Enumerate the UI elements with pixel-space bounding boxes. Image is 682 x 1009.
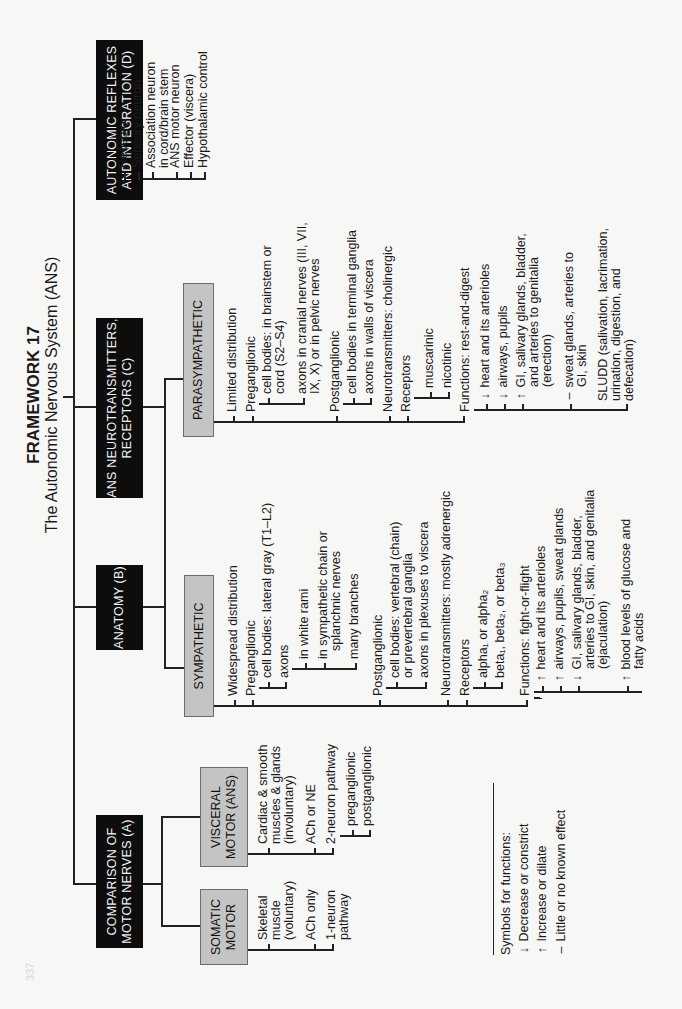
page-number: 337 [24, 963, 36, 981]
reflex-tick [124, 172, 126, 180]
para-post-tick [353, 398, 355, 405]
increase-arrow-icon: ↑ [536, 945, 549, 955]
decrease-arrow-icon: ↓ [571, 673, 584, 683]
para-tick [407, 416, 409, 423]
trunk-drop-c [73, 407, 96, 409]
symp-receptor-alpha: alpha₁ or alpha₂ [477, 590, 490, 678]
symp-tick [379, 700, 381, 707]
symp-drop [164, 668, 184, 670]
symp-spine [214, 706, 527, 708]
para-tick [463, 416, 465, 423]
page-title: FRAMEWORK 17 [24, 295, 44, 495]
legend-no-effect-label: Little or no known effect [554, 810, 568, 942]
para-function-item: ↓ airways, pupils [497, 306, 510, 401]
symp-pre-cell-bodies: cell bodies: lateral gray (T1–L2) [261, 503, 274, 678]
visceral-item: postganglionic [361, 746, 374, 826]
symp-pre-axons: axons [278, 645, 291, 678]
symp-post-spine [386, 688, 426, 690]
symp-receptors: Receptors [459, 639, 472, 696]
para-pre-spine [259, 404, 304, 406]
symp-func-bar [540, 698, 542, 699]
para-func-tick [486, 404, 488, 411]
symp-pre-tick [268, 682, 270, 689]
reflex-tick [152, 172, 154, 180]
para-rec-tick [430, 392, 432, 399]
visceral-tick [314, 848, 316, 855]
symp-function-item: ↑ heart and its arterioles [535, 546, 548, 683]
symp-tick [526, 700, 528, 707]
trunk-drop-a [73, 884, 96, 886]
bc-branch [164, 379, 166, 669]
symp-post-tick [396, 682, 398, 689]
para-pre-tick [268, 398, 270, 405]
symp-func-sub-spine [534, 692, 642, 694]
no-effect-dash-icon: – [563, 391, 576, 401]
para-func-tick [626, 404, 628, 411]
para-post-tick [370, 398, 372, 405]
para-distribution: Limited distribution [226, 308, 239, 412]
somatic-item: (voluntary) [283, 881, 296, 940]
para-func-tick [504, 404, 506, 411]
reflex-tick [190, 172, 192, 180]
visceral-spine [248, 854, 332, 856]
sympathetic-label: SYMPATHETIC [192, 602, 207, 689]
visceral-item: ACh or NE [305, 784, 318, 844]
section-b-box: ANATOMY (B) [96, 565, 143, 650]
symp-preganglionic: Preganglionic [245, 620, 258, 696]
increase-arrow-icon: ↑ [535, 673, 548, 683]
symp-post-tick [425, 682, 427, 689]
para-function-item: GI, skin [576, 345, 589, 387]
para-pre-tick [303, 398, 305, 405]
para-rec-tick [448, 392, 450, 399]
increase-arrow-icon: ↑ [515, 391, 528, 401]
increase-arrow-icon: ↑ [620, 673, 633, 683]
para-tick [389, 416, 391, 423]
para-neurotransmitters: Neurotransmitters: cholinergic [382, 246, 395, 412]
para-function-item: defecation) [623, 339, 636, 401]
reflex-tick [138, 172, 140, 180]
para-rec-spine [414, 398, 449, 400]
legend-item: ↑ Increase or dilate [536, 846, 549, 955]
trunk-drop-d [73, 119, 96, 121]
para-function-item: ↓ heart and its arterioles [479, 264, 492, 401]
symp-postganglionic: Postganglionic [372, 615, 385, 696]
symp-axons-tick [324, 663, 326, 670]
symp-rec-tick [501, 682, 503, 689]
para-f2-label: airways, pupils [496, 306, 510, 388]
visceral-motor-box: VISCERALMOTOR (ANS) [200, 767, 248, 867]
somatic-item: pathway [338, 893, 351, 940]
reflex-item: Hypothalamic control [197, 51, 210, 168]
symp-f2-label: airways, pupils, sweat glands [552, 508, 566, 670]
para-pre-axons: IX, X) or in pelvic nerves [309, 259, 322, 394]
visceral-sub-spine [340, 836, 370, 838]
symp-func-tick [542, 686, 544, 693]
visceral-sub-tick [369, 830, 371, 837]
para-preganglionic: Preganglionic [245, 336, 258, 412]
symp-branches: many branches [348, 574, 361, 659]
symp-f1-label: heart and its arterioles [534, 546, 548, 670]
para-func-tick [522, 404, 524, 411]
parasympathetic-label: PARASYMPATHETIC [191, 300, 206, 420]
decrease-arrow-icon: ↓ [479, 391, 492, 401]
reflex-item: Receptor [117, 117, 130, 168]
para-functions: Functions: rest-and-digest [459, 267, 472, 412]
symp-receptor-beta: beta₁, beta₂, or beta₃ [494, 562, 507, 678]
a-connector [143, 884, 162, 886]
decrease-arrow-icon: ↓ [497, 391, 510, 401]
page-subtitle: The Autonomic Nervous System (ANS) [43, 195, 61, 595]
symp-tick [466, 700, 468, 707]
c-connector [143, 407, 165, 409]
symp-f3-label: GI, salivary glands, bladder, [570, 515, 584, 669]
somatic-tick [332, 944, 334, 951]
para-f4-label: sweat glands, arteries to [562, 252, 576, 388]
para-receptors: Receptors [400, 355, 413, 412]
para-tick [233, 416, 235, 423]
visceral-label-2: MOTOR (ANS) [224, 775, 239, 859]
reflex-item: ANS motor neuron [169, 64, 182, 168]
b-connector [143, 607, 165, 609]
parasympathetic-box: PARASYMPATHETIC [183, 283, 214, 437]
para-func-spine [474, 410, 627, 412]
visceral-tick [268, 848, 270, 855]
framework-diagram: FRAMEWORK 17 The Autonomic Nervous Syste… [0, 0, 682, 1009]
para-f1-label: heart and its arterioles [478, 264, 492, 388]
